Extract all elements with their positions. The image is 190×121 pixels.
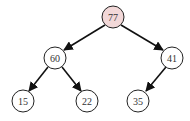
- node-label: 41: [167, 53, 177, 64]
- edge-77-60: [64, 25, 105, 50]
- binary-tree-diagram: 77 60 41 15 22 35: [0, 0, 190, 121]
- node-label: 15: [18, 96, 28, 107]
- node-label: 22: [82, 96, 92, 107]
- edge-41-35: [146, 67, 166, 91]
- node-label: 35: [133, 96, 143, 107]
- tree-node-22: 22: [76, 90, 98, 112]
- tree-node-41: 41: [161, 47, 183, 69]
- tree-node-60: 60: [44, 47, 66, 69]
- tree-node-35: 35: [127, 90, 149, 112]
- edge-77-41: [121, 25, 163, 50]
- edge-60-22: [62, 67, 81, 91]
- edge-60-15: [29, 67, 48, 91]
- tree-node-77: 77: [102, 6, 124, 28]
- node-label: 77: [108, 12, 118, 23]
- node-label: 60: [50, 53, 60, 64]
- tree-node-15: 15: [12, 90, 34, 112]
